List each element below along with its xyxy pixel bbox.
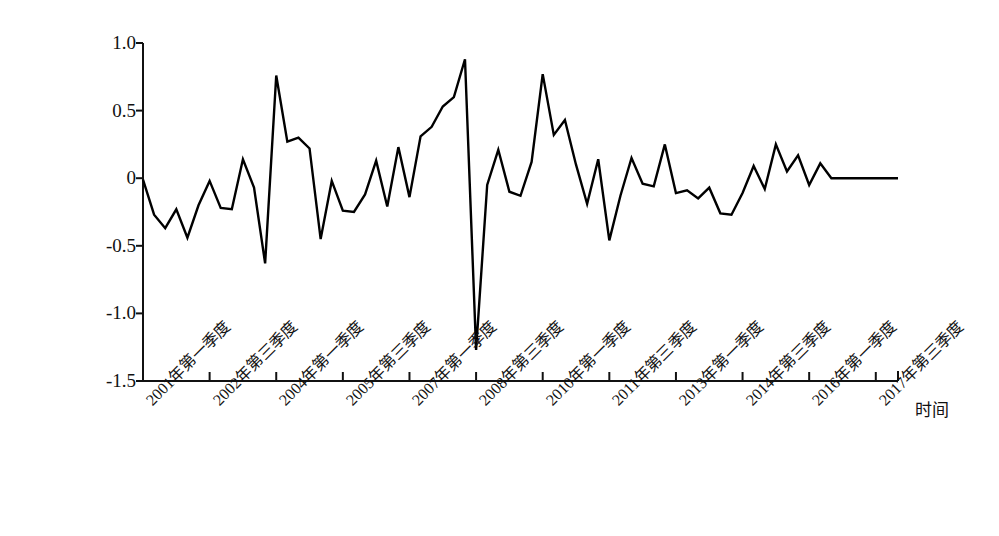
chart-figure: 1.00.50-0.5-1.0-1.5 2001年第一季度2002年第三季度20… — [0, 0, 999, 536]
x-axis-title: 时间 — [915, 396, 949, 421]
x-axis-tick-labels: 2001年第一季度2002年第三季度2004年第一季度2005年第三季度2007… — [0, 0, 999, 536]
